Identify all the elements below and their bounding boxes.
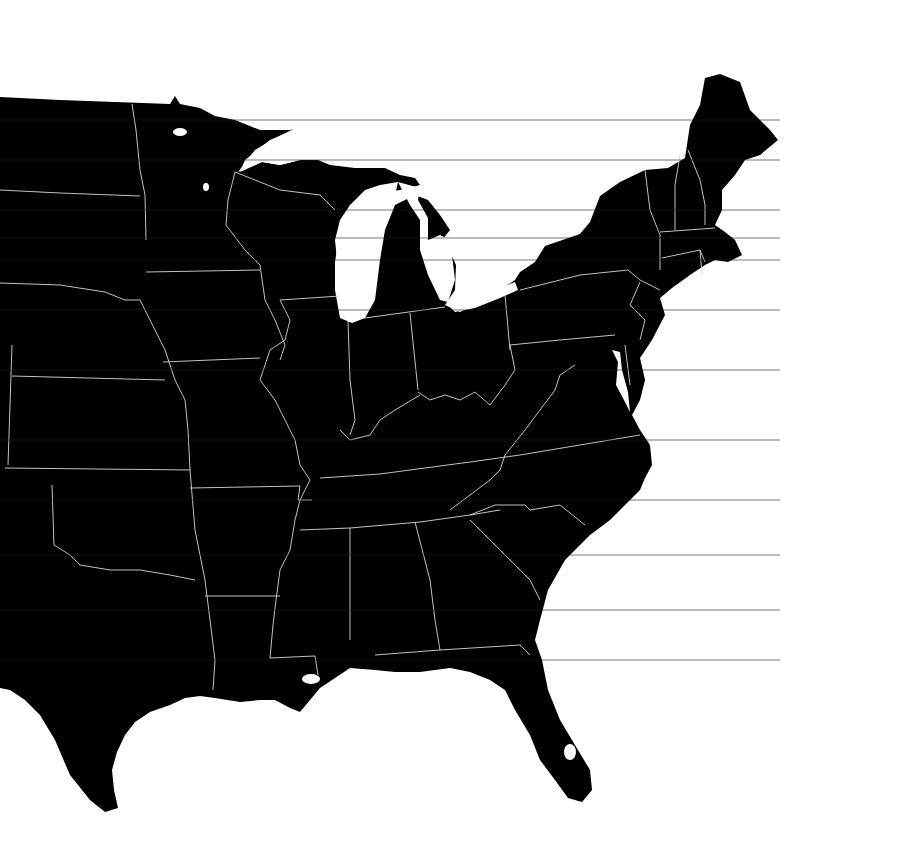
mille-lacs-lake [203,183,209,191]
red-lake [173,128,187,136]
eastern-us-map [0,0,918,866]
lake-pontchartrain [302,674,320,684]
lake-okeechobee [564,744,576,760]
